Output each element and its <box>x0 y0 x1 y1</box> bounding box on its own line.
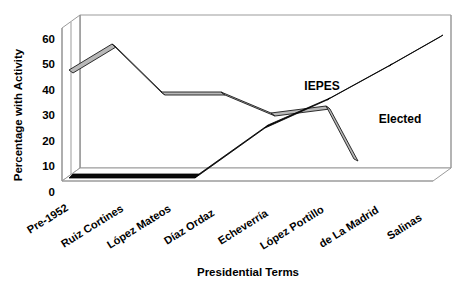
iepes-series-label: IEPES <box>304 79 339 93</box>
iepes-ribbon-2 <box>161 92 225 95</box>
x-axis-title: Presidential Terms <box>197 266 299 278</box>
presidential-terms-line-chart: 60 50 40 30 20 10 0 Percentage with Acti… <box>0 0 457 292</box>
elected-series-label: Elected <box>379 112 422 126</box>
y-tick-40: 40 <box>42 84 55 96</box>
x-label-pre-1952: Pre-1952 <box>25 201 70 235</box>
y-tick-30: 30 <box>42 109 55 121</box>
x-axis-category-labels: Pre-1952 Ruiz Cortines López Mateos Díaz… <box>25 201 424 251</box>
x-label-salinas: Salinas <box>385 211 424 242</box>
y-tick-20: 20 <box>42 135 55 147</box>
y-axis-tick-labels: 60 50 40 30 20 10 0 <box>42 33 55 198</box>
y-tick-0: 0 <box>49 186 55 198</box>
x-label-lopez-portillo: López Portillo <box>258 203 326 252</box>
y-axis-title: Percentage with Activity <box>12 48 24 181</box>
x-label-de-la-madrid: de La Madrid <box>317 204 381 250</box>
y-tick-50: 50 <box>42 58 55 70</box>
chart-container: 60 50 40 30 20 10 0 Percentage with Acti… <box>0 0 457 292</box>
chart-3d-frame <box>62 15 451 181</box>
plot-back-wall <box>80 15 451 168</box>
y-tick-10: 10 <box>42 160 55 172</box>
elected-ribbon-0 <box>69 174 199 178</box>
y-tick-60: 60 <box>42 33 55 45</box>
